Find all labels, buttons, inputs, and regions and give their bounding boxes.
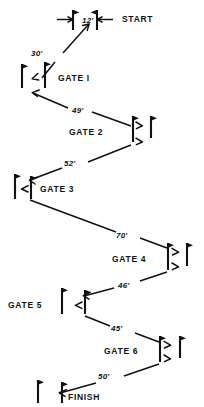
gate1-arrow-in (32, 74, 38, 81)
gate3-label: GATE 3 (40, 184, 74, 194)
leg-49-right-segment (92, 112, 131, 126)
course-svg: 12' START 30' GATE I 49' (0, 0, 204, 407)
start-flag-left-pennant (74, 10, 80, 15)
finish-flag-left-pennant (39, 380, 44, 384)
leg-52-right-segment (88, 145, 131, 162)
gate6-label: GATE 6 (104, 346, 138, 356)
leg-49-group: 49' (32, 90, 131, 126)
gate6-arrow-upper (164, 341, 171, 348)
distance-label-70: 70' (116, 231, 128, 240)
gate6-group: GATE 6 (104, 336, 186, 362)
leg-45-left-segment (85, 316, 110, 326)
gate2-flag-right-pennant (152, 116, 157, 120)
distance-label-46: 46' (117, 281, 130, 290)
leg-46-right-segment (140, 272, 167, 281)
gate2-label: GATE 2 (69, 127, 103, 137)
leg-50-right-segment (124, 364, 159, 376)
gate5-flag-left-pennant (63, 288, 68, 292)
leg-46-group: 46' (83, 272, 167, 299)
start-label: START (122, 14, 153, 24)
gate6-flag-right-pennant (181, 336, 186, 340)
gate3-flag-right-pennant (32, 176, 37, 180)
distance-label-50: 50' (98, 372, 110, 381)
leg-30-group: 30' (31, 24, 89, 78)
leg-52-group: 52' (29, 145, 131, 184)
gate1-label: GATE I (58, 73, 90, 83)
gate5-arrow-lower (75, 302, 82, 308)
distance-label-45: 45' (110, 324, 123, 333)
gate4-group: GATE 4 (112, 243, 193, 270)
distance-label-30: 30' (31, 49, 43, 58)
distance-label-52: 52' (64, 159, 76, 168)
gate1-group: GATE I (22, 62, 90, 88)
gate1-flag-right-pennant (46, 62, 51, 66)
gate2-arrow-upper (136, 122, 142, 129)
slalom-course-diagram: 12' START 30' GATE I 49' (0, 0, 204, 407)
gate6-flag-left-pennant (161, 336, 166, 340)
gate3-flag-left-pennant (16, 174, 21, 178)
gate4-flag-right-pennant (188, 243, 193, 247)
gate2-arrow-lower (136, 138, 142, 144)
gate2-flag-left-pennant (134, 116, 139, 120)
gate5-group: GATE 5 (8, 288, 91, 314)
gate6-arrow-lower (164, 355, 171, 362)
leg-30-upper-segment (63, 25, 88, 53)
leg-45-group: 45' (85, 316, 159, 342)
leg-70-group: 70' (30, 200, 167, 248)
gate3-group: GATE 3 (15, 174, 74, 199)
leg-70-right-segment (140, 238, 167, 248)
leg-45-right-segment (135, 333, 159, 342)
distance-label-49: 49' (71, 106, 84, 115)
finish-flag-right-pennant (63, 382, 68, 386)
start-group: 12' START (57, 10, 153, 30)
finish-group: FINISH (38, 380, 100, 403)
leg-70-left-segment (30, 200, 116, 232)
start-flag-right-pennant (91, 10, 97, 15)
leg-49-left-segment (33, 93, 68, 108)
gate1-flag-left-pennant (23, 64, 29, 68)
finish-label: FINISH (68, 392, 100, 402)
gate4-arrow-lower (172, 263, 179, 270)
gate4-arrow-upper (172, 248, 179, 255)
gate3-arrow-lower (22, 186, 29, 192)
distance-label-start: 12' (82, 16, 94, 25)
gate5-label: GATE 5 (8, 300, 42, 310)
gate4-label: GATE 4 (112, 254, 146, 264)
gate4-flag-left-pennant (169, 243, 174, 247)
